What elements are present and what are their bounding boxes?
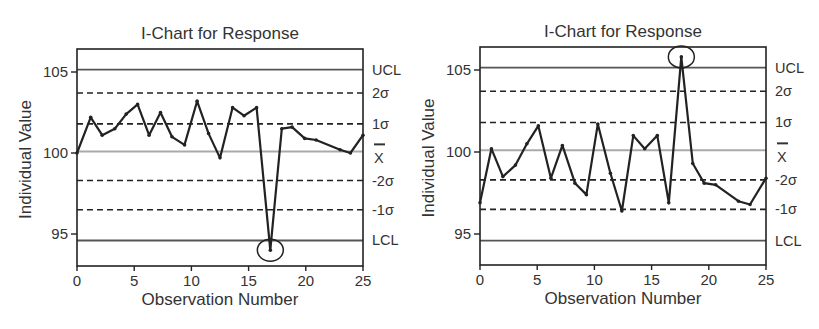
control-charts-figure: I-Chart for ResponseUCL2σ1σX-2σ-1σLCL951… (0, 0, 819, 329)
data-point (680, 55, 684, 59)
data-point (573, 181, 577, 185)
data-point (303, 137, 307, 141)
data-point (314, 138, 318, 142)
data-point (748, 203, 752, 207)
data-point (609, 172, 613, 176)
chart-title: I-Chart for Response (544, 22, 702, 41)
data-point (231, 106, 235, 110)
data-point (737, 199, 741, 203)
y-tick-label: 100 (43, 144, 68, 161)
data-point (290, 125, 294, 129)
data-series-line (480, 57, 766, 211)
y-tick-label: 100 (446, 143, 471, 160)
data-point (269, 248, 273, 252)
data-point (702, 181, 706, 185)
control-line-label: UCL (372, 62, 401, 78)
x-tick-label: 25 (355, 272, 372, 289)
data-point (490, 147, 494, 151)
control-line-label: LCL (775, 233, 802, 249)
control-line-label: -2σ (775, 172, 797, 188)
data-point (113, 127, 117, 131)
x-tick-label: 15 (643, 271, 660, 288)
x-tick-label: 10 (586, 271, 603, 288)
data-point (596, 122, 600, 126)
x-tick-label: 5 (130, 272, 138, 289)
x-tick-label: 0 (476, 271, 484, 288)
control-line-label: 2σ (775, 83, 792, 99)
data-point (714, 183, 718, 187)
data-point (338, 148, 342, 152)
data-point (620, 209, 624, 213)
data-point (561, 144, 565, 148)
control-line-label: LCL (372, 232, 399, 248)
data-point (242, 114, 246, 118)
data-point (667, 201, 671, 205)
data-point (643, 147, 647, 151)
x-tick-label: 20 (700, 271, 717, 288)
data-point (89, 116, 93, 120)
data-point (537, 124, 541, 128)
x-tick-label: 10 (183, 272, 200, 289)
control-line-label: 1σ (372, 116, 389, 132)
x-tick-label: 0 (73, 272, 81, 289)
control-line-label-xbar: X (374, 150, 384, 166)
data-point (501, 175, 505, 179)
control-line-label-xbar: X (777, 149, 787, 165)
control-line-label: 2σ (372, 85, 389, 101)
i-chart-right: I-Chart for ResponseUCL2σ1σX-2σ-1σLCL951… (419, 22, 804, 308)
data-point (514, 163, 518, 167)
data-point (218, 156, 222, 160)
y-axis-label: Individual Value (419, 99, 438, 218)
data-point (585, 193, 589, 197)
control-line-label: -2σ (372, 173, 394, 189)
data-point (280, 127, 284, 131)
data-point (656, 134, 660, 138)
data-point (136, 103, 140, 107)
x-tick-label: 25 (758, 271, 775, 288)
data-point (691, 162, 695, 166)
y-tick-label: 95 (454, 225, 471, 242)
data-point (159, 111, 163, 115)
y-tick-label: 105 (446, 61, 471, 78)
data-point (170, 135, 174, 139)
data-point (147, 133, 151, 137)
y-axis-label: Individual Value (16, 100, 35, 219)
y-tick-label: 105 (43, 63, 68, 80)
data-point (183, 143, 187, 147)
plot-frame (480, 47, 766, 265)
data-point (195, 99, 199, 103)
data-point (349, 151, 353, 155)
chart-title: I-Chart for Response (141, 24, 299, 43)
x-axis-label: Observation Number (545, 289, 702, 308)
control-line-label: UCL (775, 60, 804, 76)
x-tick-label: 15 (240, 272, 257, 289)
data-point (100, 133, 104, 137)
x-axis-label: Observation Number (142, 290, 299, 309)
data-point (255, 106, 259, 110)
x-tick-label: 20 (297, 272, 314, 289)
data-point (525, 142, 529, 146)
y-tick-label: 95 (51, 225, 68, 242)
data-point (207, 132, 211, 136)
data-point (124, 112, 128, 116)
x-tick-label: 5 (533, 271, 541, 288)
data-point (549, 176, 553, 180)
control-line-label: -1σ (775, 201, 797, 217)
control-line-label: -1σ (372, 202, 394, 218)
control-line-label: 1σ (775, 114, 792, 130)
data-point (631, 134, 635, 138)
i-chart-left: I-Chart for ResponseUCL2σ1σX-2σ-1σLCL951… (16, 24, 401, 309)
